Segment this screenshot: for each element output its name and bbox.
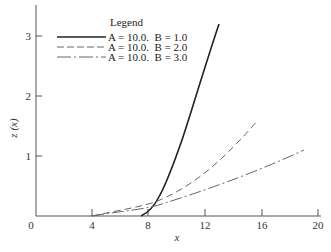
x-tick-label-16: 16 xyxy=(257,219,269,231)
y-tick-label-2: 2 xyxy=(26,90,32,102)
series-b2-dashed xyxy=(92,120,258,216)
chart-canvas: 1 2 3 0 4 8 12 16 20 x z (x) Legend A = … xyxy=(0,0,331,252)
x-axis-label: x xyxy=(174,231,180,243)
legend: Legend A = 10.0. B = 1.0 A = 10.0. B = 2… xyxy=(57,16,188,63)
legend-label-b3: A = 10.0. B = 3.0 xyxy=(108,51,188,63)
y-ticks: 1 2 3 xyxy=(26,30,43,162)
y-tick-label-3: 3 xyxy=(26,30,32,42)
x-tick-label-20: 20 xyxy=(313,219,325,231)
x-tick-label-0: 0 xyxy=(28,219,34,231)
x-tick-label-4: 4 xyxy=(89,219,95,231)
x-tick-label-8: 8 xyxy=(145,219,151,231)
x-tick-label-12: 12 xyxy=(200,219,211,231)
x-ticks: 0 4 8 12 16 20 xyxy=(28,209,324,231)
y-tick-label-1: 1 xyxy=(26,150,32,162)
legend-title: Legend xyxy=(110,16,143,28)
series-b3-dashdot xyxy=(92,150,304,216)
y-axis-label: z (x) xyxy=(7,118,20,139)
